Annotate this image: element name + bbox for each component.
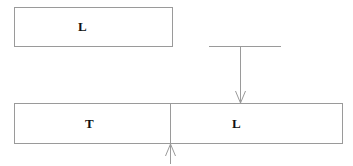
connectors-layer xyxy=(0,0,353,166)
